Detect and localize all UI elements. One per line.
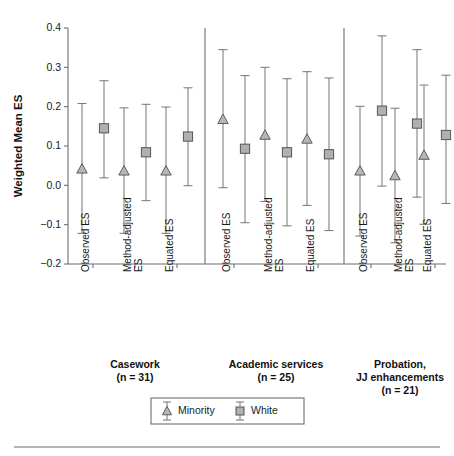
x-tick-label: Observed ES <box>80 212 91 272</box>
x-tick-label: ES <box>274 258 285 272</box>
figure-container: 0.40.30.20.10.0−0.1−0.2 Observed ESMetho… <box>0 0 454 456</box>
group-label: (n = 25) <box>257 371 294 383</box>
x-tick-label: Equated ES <box>164 218 175 272</box>
legend: MinorityWhite <box>151 398 304 424</box>
x-tick-label: Equated ES <box>305 218 316 272</box>
x-tick-label: Method-adjusted <box>393 198 404 273</box>
marker-triangle-minority <box>419 150 429 159</box>
legend-box <box>151 398 304 424</box>
x-tick-label: Observed ES <box>358 212 369 272</box>
marker-triangle-minority <box>77 164 87 173</box>
y-tick-label: 0.2 <box>46 100 61 112</box>
marker-square-white <box>324 150 333 159</box>
group-label: JJ enhancements <box>356 371 444 383</box>
y-axis-title: Weighted Mean ES <box>12 94 24 197</box>
x-tick-label: Equated ES <box>422 218 433 272</box>
marker-square-white <box>141 148 150 157</box>
marker-triangle-minority <box>302 134 312 143</box>
marker-square-white <box>441 130 450 139</box>
marker-triangle-minority <box>260 130 270 139</box>
group-label: Probation, <box>374 358 426 370</box>
x-tick-label: Observed ES <box>221 212 232 272</box>
group-label-group: Casework(n = 31)Academic services(n = 25… <box>110 358 444 396</box>
marker-triangle-minority <box>218 114 228 123</box>
y-tick-label: 0.0 <box>46 179 61 191</box>
group-label: Casework <box>110 358 160 370</box>
y-tick-label: 0.3 <box>46 61 61 73</box>
x-tick-label: Method-adjusted <box>263 198 274 273</box>
marker-square-white <box>240 144 249 153</box>
marker-triangle-minority <box>390 170 400 179</box>
y-tick-label: 0.4 <box>46 21 61 33</box>
marker-square-white <box>183 132 192 141</box>
y-tick-label-group: 0.40.30.20.10.0−0.1−0.2 <box>40 21 61 269</box>
y-tick-label: −0.2 <box>40 257 61 269</box>
marker-triangle-minority <box>355 166 365 175</box>
group-label: (n = 21) <box>381 384 418 396</box>
x-tick-label: ES <box>133 258 144 272</box>
group-label: (n = 31) <box>116 371 153 383</box>
x-tick-label: Method-adjusted <box>122 198 133 273</box>
marker-square-white <box>99 124 108 133</box>
y-tick-label: −0.1 <box>40 218 61 230</box>
marker-triangle-minority <box>161 166 171 175</box>
x-tick-label: ES <box>404 258 415 272</box>
x-tick-label-group: Observed ESMethod-adjustedESEquated ESOb… <box>80 198 433 273</box>
error-bar-chart: 0.40.30.20.10.0−0.1−0.2 Observed ESMetho… <box>0 0 454 456</box>
legend-label: White <box>251 404 278 416</box>
legend-marker-square <box>236 407 244 415</box>
y-tick-label: 0.1 <box>46 139 61 151</box>
legend-marker-triangle <box>162 406 171 414</box>
legend-label: Minority <box>178 404 216 416</box>
marker-square-white <box>377 106 386 115</box>
marker-triangle-minority <box>119 166 129 175</box>
group-label: Academic services <box>229 358 324 370</box>
marker-square-white <box>282 148 291 157</box>
marker-square-white <box>412 119 421 128</box>
y-axis-group <box>64 28 68 264</box>
